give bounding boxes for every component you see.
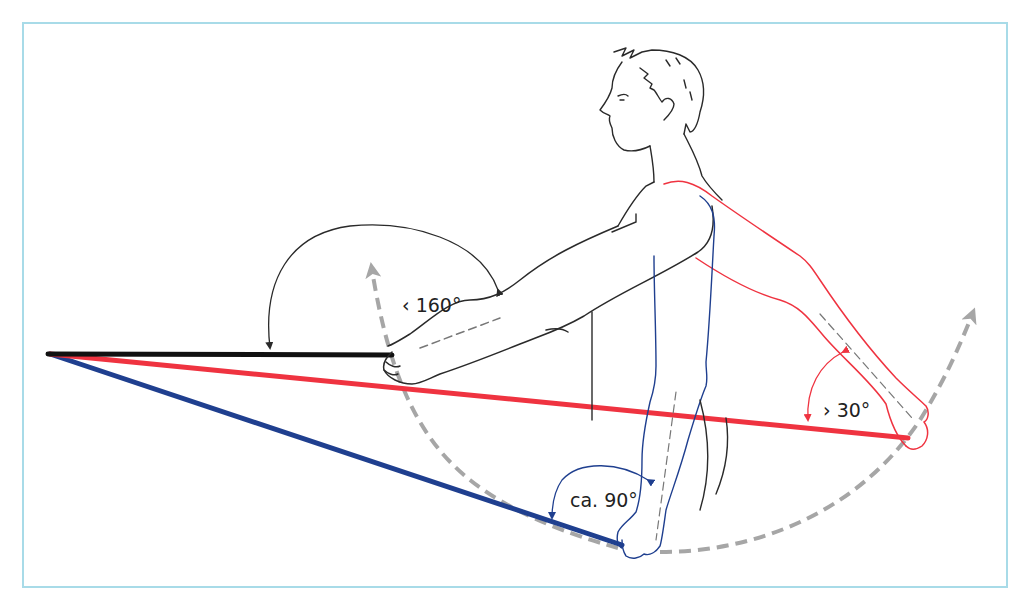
arm-red-backward	[664, 181, 928, 449]
angle-arc-black	[269, 225, 498, 348]
shoulder-rom-diagram	[0, 0, 1024, 613]
angle-label-red: › 30°	[823, 401, 870, 420]
angle-label-blue: ca. 90°	[570, 491, 638, 510]
motion-arc-dashed	[372, 270, 972, 552]
bars	[48, 354, 908, 545]
head-outline	[600, 48, 722, 200]
angle-label-black: ‹ 160°	[402, 296, 461, 315]
bar-black	[48, 354, 392, 355]
